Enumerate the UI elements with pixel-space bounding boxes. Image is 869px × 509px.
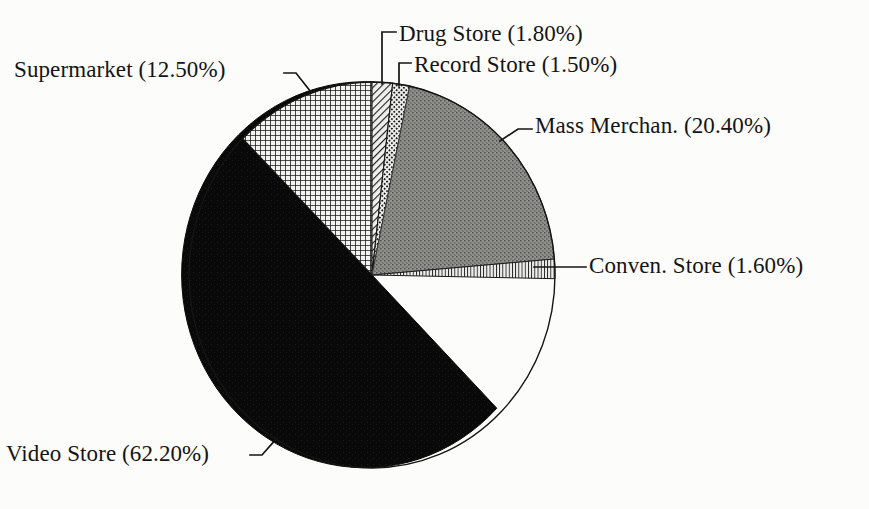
pie-label-drug-store: Drug Store (1.80%) (399, 21, 583, 47)
leader-line-mass-merchan (500, 129, 532, 141)
pie-chart: Drug Store (1.80%) Record Store (1.50%) … (0, 0, 869, 509)
pie-label-mass-merchan: Mass Merchan. (20.40%) (535, 113, 771, 139)
leader-line-record-store (399, 63, 411, 86)
pie-label-supermarket: Supermarket (12.50%) (14, 57, 226, 83)
leader-line-drug-store (382, 32, 396, 84)
pie-label-record-store: Record Store (1.50%) (414, 52, 617, 78)
pie-label-video-store: Video Store (62.20%) (6, 441, 209, 467)
pie-slices (182, 82, 555, 468)
leader-line-supermarket (284, 73, 311, 92)
pie-label-conven-store: Conven. Store (1.60%) (589, 253, 803, 279)
